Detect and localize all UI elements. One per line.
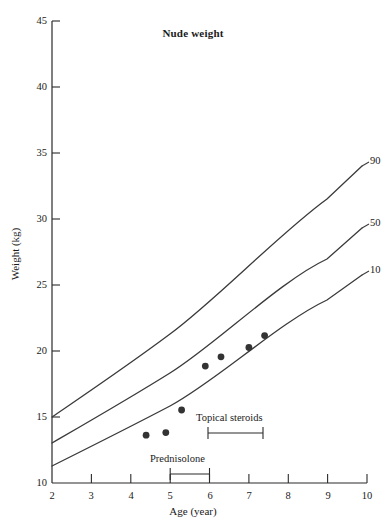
x-tick-label-10: 10 xyxy=(357,490,377,501)
curve-end-leaders xyxy=(362,162,369,275)
nude-weight-growth-chart: Nude weight Age (year) Weight (kg) 45 40… xyxy=(0,0,387,529)
chart-plot-area xyxy=(0,0,387,529)
x-tick-label-8: 8 xyxy=(278,490,298,501)
curve-label-10: 10 xyxy=(370,264,381,275)
data-point xyxy=(162,429,169,436)
chart-title: Nude weight xyxy=(118,27,268,39)
prednisolone-bracket xyxy=(170,468,209,480)
y-axis-ticks xyxy=(52,21,60,417)
x-tick-label-6: 6 xyxy=(200,490,220,501)
x-axis-title: Age (year) xyxy=(133,505,253,517)
y-tick-label-40: 40 xyxy=(23,81,47,92)
percentile-curve-90 xyxy=(52,166,362,417)
y-tick-label-20: 20 xyxy=(23,345,47,356)
y-tick-label-25: 25 xyxy=(23,279,47,290)
prednisolone-label: Prednisolone xyxy=(150,453,205,464)
data-point xyxy=(246,344,253,351)
data-point xyxy=(178,407,185,414)
x-tick-label-3: 3 xyxy=(81,490,101,501)
x-tick-label-2: 2 xyxy=(42,490,62,501)
y-tick-label-35: 35 xyxy=(23,147,47,158)
percentile-curve-50 xyxy=(52,228,362,443)
x-tick-label-4: 4 xyxy=(121,490,141,501)
y-tick-label-10: 10 xyxy=(23,477,47,488)
y-axis-title: Weight (kg) xyxy=(9,204,21,304)
data-point xyxy=(143,432,150,439)
x-tick-label-9: 9 xyxy=(318,490,338,501)
curve-label-90: 90 xyxy=(370,155,381,166)
data-point xyxy=(202,363,209,370)
topical-steroids-bracket xyxy=(208,427,263,439)
x-axis-ticks xyxy=(91,474,367,483)
y-tick-label-30: 30 xyxy=(23,213,47,224)
curve-label-50: 50 xyxy=(370,217,381,228)
x-tick-label-7: 7 xyxy=(239,490,259,501)
data-point xyxy=(218,353,225,360)
y-tick-label-15: 15 xyxy=(23,411,47,422)
y-tick-label-45: 45 xyxy=(23,15,47,26)
data-point xyxy=(261,332,268,339)
x-tick-label-5: 5 xyxy=(160,490,180,501)
topical-steroids-label: Topical steroids xyxy=(196,412,263,423)
